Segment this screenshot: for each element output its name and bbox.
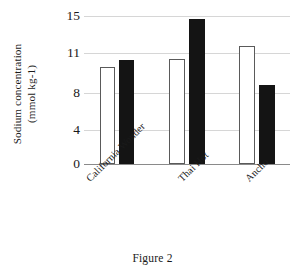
y-axis-title-line1: Sodium concentration (10, 44, 24, 145)
bar-thai-hot-white (169, 59, 185, 164)
figure-caption: Figure 2 (0, 252, 305, 264)
figure-container: Sodium concentration (mmol kg-1) 15 11 8… (0, 0, 305, 277)
bar-ancho-black (259, 85, 275, 164)
y-tick-label-0: 0 (40, 157, 80, 171)
gridline-15 (84, 16, 290, 17)
plot-area (84, 10, 292, 166)
y-axis-tick-labels: 15 11 8 4 0 (38, 10, 80, 170)
bar-ancho-white (239, 46, 255, 164)
y-tick-label-15: 15 (40, 9, 80, 23)
gridline-11 (84, 53, 290, 54)
y-tick-label-11: 11 (40, 46, 80, 60)
bar-thai-hot-black (189, 19, 205, 164)
y-axis-title-line2: (mmol kg-1) (24, 65, 38, 123)
y-tick-label-8: 8 (40, 86, 80, 100)
y-tick-label-4: 4 (40, 123, 80, 137)
